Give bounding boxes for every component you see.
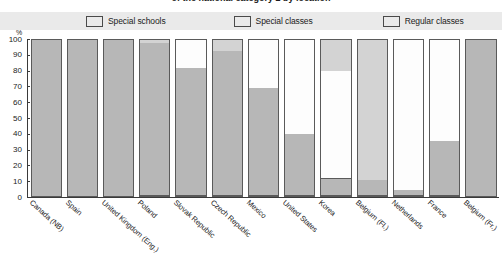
bar-segment [285, 134, 314, 196]
x-axis-tick-label: United States [281, 198, 320, 234]
legend-swatch-icon [383, 16, 400, 27]
bar-slot[interactable] [354, 39, 390, 197]
x-axis-tick-label: Spain [64, 198, 84, 217]
bar-segment [394, 190, 423, 196]
y-axis-tick-label: 10 [0, 177, 27, 186]
stacked-bar[interactable] [393, 39, 424, 197]
stacked-bar[interactable] [103, 39, 134, 197]
stacked-bar[interactable] [429, 39, 460, 197]
bar-segment [213, 51, 242, 196]
bar-slot[interactable] [209, 39, 245, 197]
bar-segment [140, 43, 169, 196]
stacked-bar[interactable] [284, 39, 315, 197]
stacked-bar[interactable] [67, 39, 98, 197]
x-axis-tick-label: Canada (NB) [27, 198, 65, 233]
y-axis-tick-label: 30 [0, 145, 27, 154]
bar-slot[interactable] [245, 39, 281, 197]
x-axis-labels: Canada (NB)SpainUnited Kingdom (Eng.)Pol… [27, 198, 498, 279]
legend-label: Special schools [108, 16, 166, 26]
stacked-bar[interactable] [139, 39, 170, 197]
legend-item-regular-classes[interactable]: Regular classes [383, 16, 464, 27]
x-axis-tick-label: Netherlands [390, 198, 425, 231]
bars-container [28, 39, 499, 197]
bar-slot[interactable] [173, 39, 209, 197]
stacked-bar[interactable] [175, 39, 206, 197]
bar-segment [358, 40, 387, 180]
y-axis-tick-label: 40 [0, 129, 27, 138]
legend-swatch-icon [86, 16, 103, 27]
y-axis-tick-label: 100 [0, 35, 27, 44]
bar-segment [249, 40, 278, 88]
bar-slot[interactable] [100, 39, 136, 197]
legend-label: Special classes [256, 16, 313, 26]
y-axis-tick-label: 80 [0, 66, 27, 75]
bar-slot[interactable] [282, 39, 318, 197]
bar-segment [430, 40, 459, 141]
chart-legend: Special schools Special classes Regular … [0, 12, 502, 30]
y-axis-tick-label: 0 [0, 193, 27, 202]
bar-segment [321, 40, 350, 71]
bar-segment [68, 40, 97, 196]
legend-item-special-classes[interactable]: Special classes [234, 16, 313, 27]
bar-slot[interactable] [137, 39, 173, 197]
bar-segment [104, 40, 133, 196]
x-axis-tick-label: Mexico [245, 198, 268, 220]
stacked-bar[interactable] [212, 39, 243, 197]
stacked-bar[interactable] [31, 39, 62, 197]
bar-slot[interactable] [427, 39, 463, 197]
bar-segment [430, 141, 459, 196]
y-axis-tick-label: 90 [0, 50, 27, 59]
bar-segment [321, 71, 350, 179]
bar-segment [466, 40, 495, 196]
bar-segment [394, 40, 423, 190]
x-axis-tick-label: Poland [136, 198, 159, 220]
bar-slot[interactable] [390, 39, 426, 197]
y-axis-tick-label: 50 [0, 114, 27, 123]
legend-label: Regular classes [405, 16, 464, 26]
y-axis-tick-label: 20 [0, 161, 27, 170]
stacked-bar[interactable] [465, 39, 496, 197]
stacked-bar[interactable] [248, 39, 279, 197]
legend-swatch-icon [234, 16, 251, 27]
bar-slot[interactable] [64, 39, 100, 197]
bar-segment [176, 40, 205, 68]
x-axis-tick-label: Belgium (Fr.) [462, 198, 499, 233]
x-axis-tick-label: Belgium (Fl.) [354, 198, 391, 232]
plot-area [27, 39, 499, 198]
bar-segment [32, 40, 61, 196]
y-axis-tick-label: 70 [0, 82, 27, 91]
bar-segment [249, 88, 278, 196]
bar-segment [285, 40, 314, 134]
stacked-bar-chart: of the national category 2 by location S… [0, 0, 502, 279]
bar-segment [358, 180, 387, 196]
bar-slot[interactable] [28, 39, 64, 197]
bar-slot[interactable] [318, 39, 354, 197]
bar-segment [176, 68, 205, 196]
chart-title: of the national category 2 by location [0, 0, 502, 3]
x-axis-tick-label: France [426, 198, 449, 220]
bar-slot[interactable] [463, 39, 499, 197]
x-axis-tick-label: Korea [317, 198, 338, 218]
legend-item-special-schools[interactable]: Special schools [86, 16, 166, 27]
stacked-bar[interactable] [320, 39, 351, 197]
bar-segment [213, 40, 242, 51]
stacked-bar[interactable] [357, 39, 388, 197]
y-axis-tick-label: 60 [0, 98, 27, 107]
bar-segment [321, 179, 350, 196]
